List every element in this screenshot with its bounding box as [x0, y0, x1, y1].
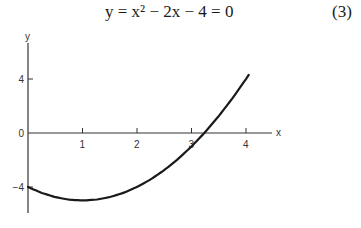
- y-tick-label: −4: [13, 182, 25, 193]
- y-tick-label: 0: [18, 128, 24, 139]
- y-tick-label: 4: [18, 74, 24, 85]
- x-axis-label: x: [276, 127, 281, 138]
- x-tick-label: 2: [134, 139, 140, 150]
- axes: [28, 43, 272, 213]
- tick-labels: yx123440−4: [13, 31, 281, 193]
- parabola-chart: yx123440−4: [0, 0, 361, 228]
- y-axis-label: y: [25, 31, 30, 42]
- parabola-curve: [28, 75, 249, 201]
- x-tick-label: 1: [80, 139, 86, 150]
- x-tick-label: 4: [243, 139, 249, 150]
